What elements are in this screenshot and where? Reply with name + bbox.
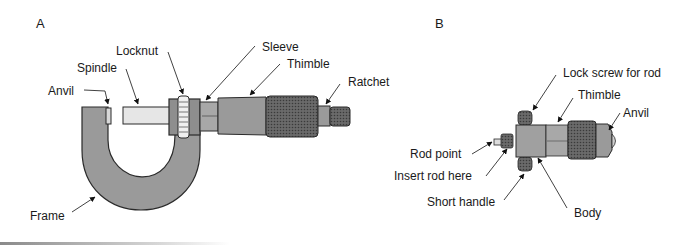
label-ratchet: Ratchet: [348, 75, 389, 89]
thimble-grip: [266, 96, 318, 137]
body-shape: [516, 125, 546, 157]
thimble-b-shape: [568, 121, 596, 159]
micrometer-diagram: A B Locknut Sleeve Spindle Thimble Ratch…: [0, 0, 690, 245]
label-anvil-b: Anvil: [623, 106, 649, 120]
label-rod-point: Rod point: [410, 147, 461, 161]
ratchet-shape: [318, 106, 330, 126]
label-short-handle: Short handle: [427, 195, 495, 209]
spindle-shape: [123, 107, 170, 124]
label-thimble-b: Thimble: [578, 88, 621, 102]
anvil-b-shape: [612, 134, 616, 148]
label-insert-rod: Insert rod here: [394, 169, 472, 183]
label-locknut: Locknut: [116, 44, 158, 58]
label-sleeve: Sleeve: [262, 40, 299, 54]
lock-screw-shape: [518, 111, 532, 125]
outside-micrometer: [82, 96, 350, 210]
label-spindle: Spindle: [77, 61, 117, 75]
label-thimble-a: Thimble: [287, 57, 330, 71]
anvil-shape: [106, 108, 111, 124]
thimble-shape: [218, 97, 266, 135]
short-handle-shape: [518, 157, 532, 171]
label-frame: Frame: [30, 209, 65, 223]
inside-micrometer: [494, 111, 616, 171]
label-lock-screw: Lock screw for rod: [563, 66, 661, 80]
sleeve-shape: [200, 102, 218, 131]
label-anvil-a: Anvil: [48, 84, 74, 98]
label-body: Body: [574, 206, 601, 220]
panel-b-label: B: [435, 16, 444, 31]
panel-a-label: A: [36, 16, 45, 31]
